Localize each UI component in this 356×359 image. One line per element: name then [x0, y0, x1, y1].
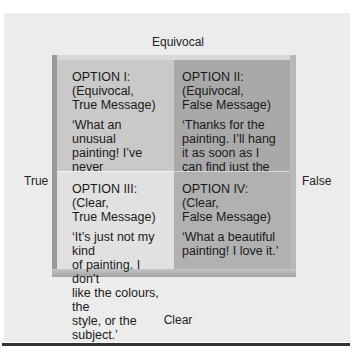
- quadrant-option-3: OPTION III: (Clear, True Message) ‘It’s …: [57, 171, 174, 269]
- quadrant-title: OPTION II: (Equivocal, False Message): [182, 70, 280, 112]
- grid-bevel-right: [290, 55, 296, 277]
- axis-label-false: False: [302, 174, 331, 188]
- bottom-rule-divider: [2, 343, 350, 346]
- quadrant-option-2: OPTION II: (Equivocal, False Message) ‘T…: [174, 60, 290, 171]
- axis-label-equivocal: Equivocal: [0, 35, 356, 49]
- quadrant-title: OPTION I: (Equivocal, True Message): [72, 70, 164, 112]
- quadrant-quote: ‘It’s just not my kind of painting. I do…: [72, 230, 164, 342]
- quadrant-quote: ‘What a beautiful painting! I love it.’: [182, 230, 280, 258]
- axis-label-clear: Clear: [0, 313, 356, 327]
- quadrant-option-4: OPTION IV: (Clear, False Message) ‘What …: [174, 171, 290, 269]
- quadrant-option-1: OPTION I: (Equivocal, True Message) ‘Wha…: [57, 60, 174, 171]
- quadrant-title: OPTION IV: (Clear, False Message): [182, 182, 280, 224]
- axis-label-true: True: [24, 174, 48, 188]
- quadrant-title: OPTION III: (Clear, True Message): [72, 182, 164, 224]
